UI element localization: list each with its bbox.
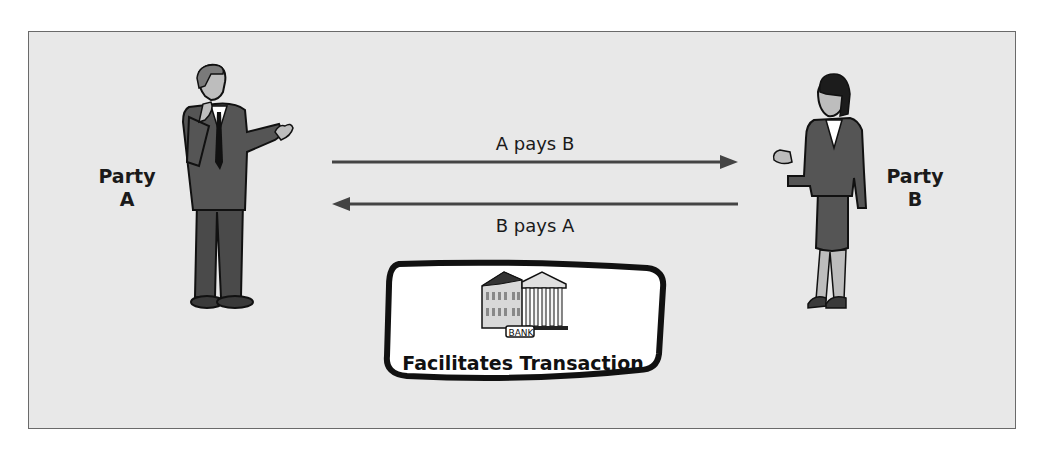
man-figure-icon [175, 62, 300, 314]
party-b-label-line2: B [880, 188, 950, 211]
party-a-label: Party A [92, 165, 162, 211]
woman-figure-icon [768, 72, 878, 316]
party-b-label-line1: Party [880, 165, 950, 188]
party-b-label: Party B [880, 165, 950, 211]
party-a-label-line1: Party [92, 165, 162, 188]
flow-b-to-a-label: B pays A [400, 215, 670, 236]
bank-sign-text: BANK [507, 328, 535, 338]
flow-a-to-b-label: A pays B [400, 133, 670, 154]
bank-caption: Facilitates Transaction [377, 352, 669, 374]
arrow-right-icon [330, 152, 740, 172]
party-a-label-line2: A [92, 188, 162, 211]
arrow-left-icon [330, 194, 740, 214]
